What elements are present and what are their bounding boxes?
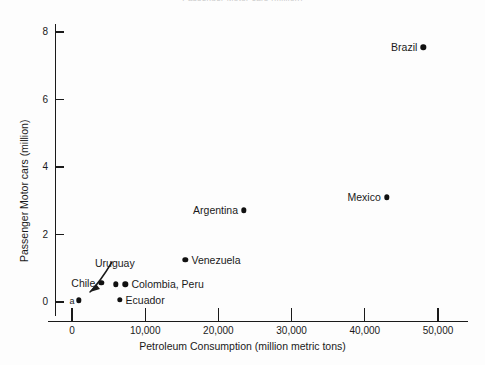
x-axis-line	[48, 321, 468, 322]
data-label-colombia-peru: Colombia, Peru	[131, 279, 203, 290]
y-tick-0	[56, 301, 64, 302]
x-tick-20000	[218, 308, 219, 321]
x-tick-label-40000: 40,000	[350, 325, 381, 336]
y-tick-label-6: 6	[30, 95, 48, 105]
y-tick-label-8: 8	[30, 27, 48, 37]
clipped-header-text: Passenger Motor cars (million)	[0, 0, 485, 1]
x-tick-30000	[291, 308, 292, 321]
data-point-ecuador[interactable]	[117, 297, 122, 302]
data-label-mexico: Mexico	[347, 192, 380, 203]
x-tick-10000	[145, 308, 146, 321]
data-point-argentina[interactable]	[241, 207, 246, 212]
data-point-brazil[interactable]	[421, 44, 426, 49]
footnote-marker-a: a	[70, 296, 75, 305]
data-label-venezuela: Venezuela	[191, 254, 240, 265]
data-point-venezuela[interactable]	[183, 257, 188, 262]
x-tick-label-10000: 10,000	[130, 325, 161, 336]
x-tick-label-20000: 20,000	[203, 325, 234, 336]
x-tick-50000	[437, 308, 438, 321]
x-tick-label-30000: 30,000	[276, 325, 307, 336]
x-tick-label-0: 0	[69, 325, 75, 336]
y-axis-line	[55, 24, 56, 316]
data-point-uruguay[interactable]	[76, 298, 81, 303]
x-axis-title: Petroleum Consumption (million metric to…	[0, 340, 485, 352]
data-point-mexico[interactable]	[384, 195, 389, 200]
y-tick-4	[56, 166, 64, 167]
y-tick-2	[56, 234, 64, 235]
y-tick-label-4: 4	[30, 162, 48, 172]
x-tick-40000	[364, 308, 365, 321]
data-point-unlabeled-5[interactable]	[113, 282, 118, 287]
data-point-colombia-peru[interactable]	[123, 282, 128, 287]
y-axis-title: Passenger Motor cars (million)	[18, 120, 30, 262]
data-label-brazil: Brazil	[391, 42, 417, 53]
data-point-chile[interactable]	[99, 280, 104, 285]
x-tick-0	[71, 308, 72, 321]
data-label-chile: Chile	[71, 278, 95, 289]
y-tick-label-0: 0	[30, 297, 48, 307]
x-tick-label-50000: 50,000	[423, 325, 454, 336]
y-tick-6	[56, 99, 64, 100]
annotation-uruguay-label: Uruguay	[95, 258, 135, 269]
y-tick-label-2: 2	[30, 230, 48, 240]
data-label-argentina: Argentina	[193, 205, 238, 216]
data-label-ecuador: Ecuador	[126, 294, 165, 305]
scatter-plot-figure: Passenger Motor cars (million) 02468 010…	[0, 0, 485, 365]
y-tick-8	[56, 31, 64, 32]
